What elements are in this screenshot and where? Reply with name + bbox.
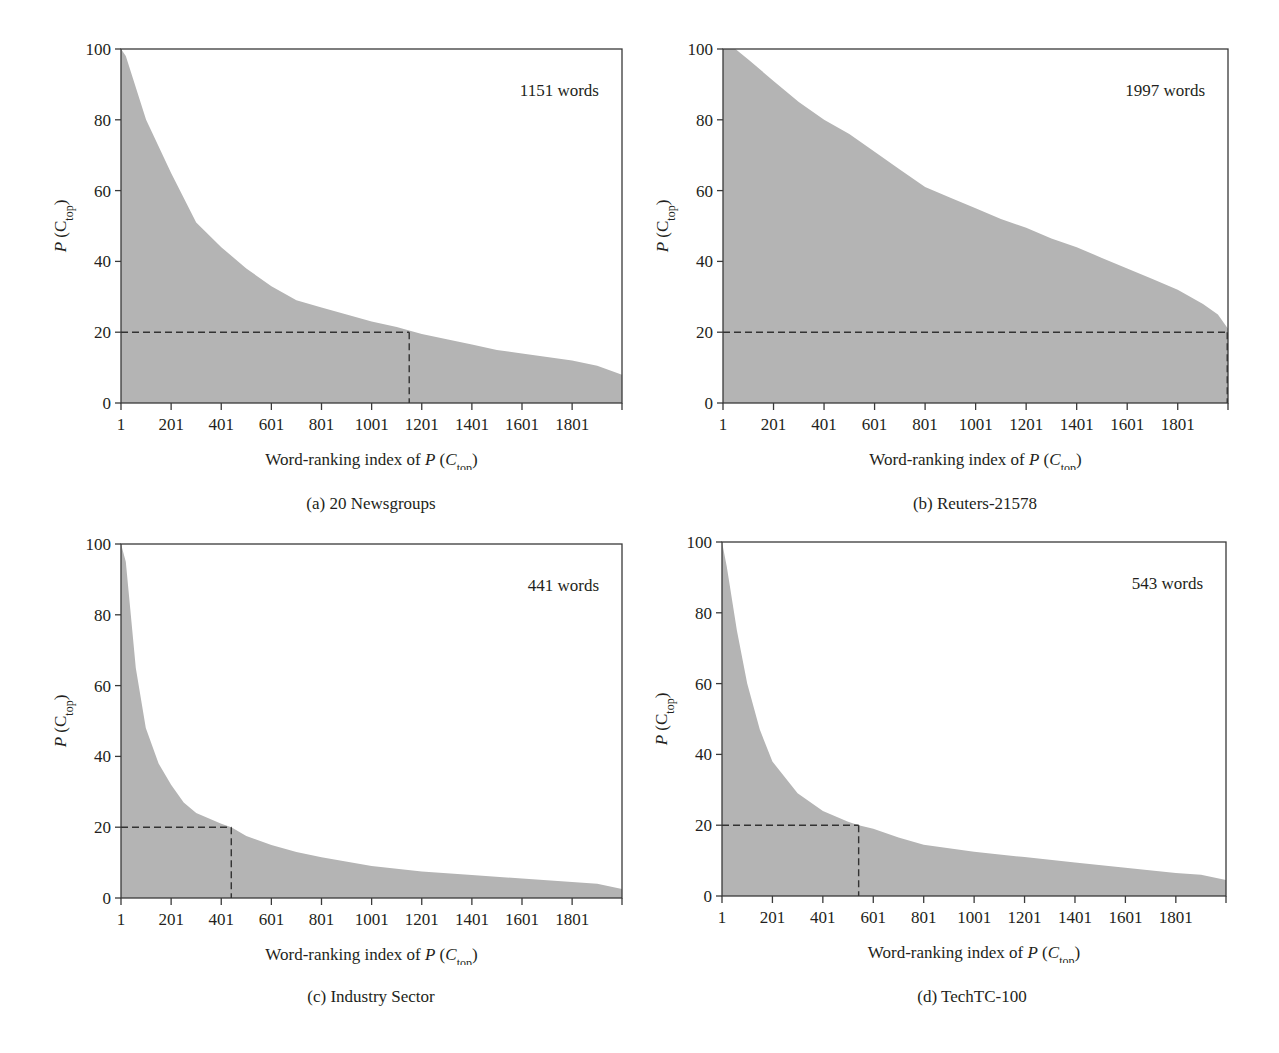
y-axis-label: P (Ctop) — [51, 695, 76, 749]
x-tick-label: 801 — [912, 415, 938, 434]
area-series — [121, 49, 622, 403]
x-tick-label: 1201 — [1008, 908, 1042, 927]
word-count-annotation: 1997 words — [1125, 81, 1205, 100]
y-axis-label: P (Ctop) — [652, 693, 677, 747]
x-axis-label: Word-ranking index of P (Ctop) — [265, 945, 477, 965]
area-series — [722, 542, 1226, 896]
x-tick-label: 1401 — [1060, 415, 1094, 434]
caption-c: (c) Industry Sector — [171, 987, 571, 1007]
y-tick-label: 40 — [94, 252, 111, 271]
x-tick-label: 1801 — [555, 910, 589, 929]
x-tick-label: 801 — [309, 415, 335, 434]
area-series — [723, 49, 1228, 403]
x-tick-label: 1 — [718, 908, 727, 927]
x-tick-label: 201 — [158, 910, 184, 929]
x-tick-label: 1 — [117, 910, 126, 929]
x-tick-label: 1001 — [959, 415, 993, 434]
y-tick-label: 80 — [696, 111, 713, 130]
word-count-annotation: 441 words — [528, 576, 599, 595]
chart-panel-a: 0204060801001201401601801100112011401160… — [0, 0, 640, 470]
y-tick-label: 20 — [695, 816, 712, 835]
x-tick-label: 401 — [810, 908, 836, 927]
x-tick-label: 1801 — [1159, 908, 1193, 927]
y-tick-label: 20 — [94, 818, 111, 837]
x-tick-label: 1001 — [355, 415, 389, 434]
y-tick-label: 80 — [695, 604, 712, 623]
x-tick-label: 1201 — [405, 415, 439, 434]
y-tick-label: 60 — [94, 677, 111, 696]
y-tick-label: 60 — [695, 675, 712, 694]
x-tick-label: 1601 — [1108, 908, 1142, 927]
chart-svg-b: 0204060801001201401601801100112011401160… — [640, 0, 1279, 470]
x-axis-label: Word-ranking index of P (Ctop) — [868, 943, 1080, 963]
caption-d: (d) TechTC-100 — [772, 987, 1172, 1007]
x-tick-label: 1601 — [505, 910, 539, 929]
chart-panel-c: 0204060801001201401601801100112011401160… — [0, 495, 640, 965]
y-tick-label: 60 — [94, 182, 111, 201]
area-series — [121, 544, 622, 898]
chart-svg-a: 0204060801001201401601801100112011401160… — [0, 0, 640, 470]
y-tick-label: 20 — [94, 323, 111, 342]
x-tick-label: 1201 — [1009, 415, 1043, 434]
y-tick-label: 60 — [696, 182, 713, 201]
x-tick-label: 601 — [861, 908, 887, 927]
chart-panel-b: 0204060801001201401601801100112011401160… — [640, 0, 1279, 470]
word-count-annotation: 543 words — [1132, 574, 1203, 593]
x-tick-label: 201 — [158, 415, 184, 434]
x-tick-label: 1 — [117, 415, 126, 434]
y-tick-label: 0 — [704, 887, 713, 906]
y-tick-label: 20 — [696, 323, 713, 342]
y-tick-label: 100 — [687, 533, 713, 552]
x-tick-label: 401 — [811, 415, 837, 434]
x-tick-label: 1401 — [455, 910, 489, 929]
x-tick-label: 601 — [259, 910, 285, 929]
y-tick-label: 0 — [103, 889, 112, 908]
chart-svg-d: 0204060801001201401601801100112011401160… — [640, 493, 1279, 963]
x-tick-label: 1201 — [405, 910, 439, 929]
x-tick-label: 601 — [259, 415, 285, 434]
x-axis-label: Word-ranking index of P (Ctop) — [265, 450, 477, 470]
x-tick-label: 1 — [719, 415, 728, 434]
figure-caption-cutoff — [0, 1043, 1279, 1053]
y-tick-label: 100 — [688, 40, 714, 59]
x-tick-label: 1001 — [957, 908, 991, 927]
y-tick-label: 40 — [94, 747, 111, 766]
x-tick-label: 401 — [209, 910, 235, 929]
x-axis-label: Word-ranking index of P (Ctop) — [869, 450, 1081, 470]
y-tick-label: 40 — [695, 745, 712, 764]
x-tick-label: 1601 — [505, 415, 539, 434]
y-axis-label: P (Ctop) — [653, 200, 678, 254]
y-tick-label: 0 — [705, 394, 714, 413]
x-tick-label: 1401 — [455, 415, 489, 434]
y-axis-label: P (Ctop) — [51, 200, 76, 254]
x-tick-label: 201 — [760, 908, 786, 927]
x-tick-label: 201 — [761, 415, 787, 434]
x-tick-label: 1601 — [1110, 415, 1144, 434]
x-tick-label: 1801 — [1161, 415, 1195, 434]
y-tick-label: 0 — [103, 394, 112, 413]
y-tick-label: 100 — [86, 535, 112, 554]
x-tick-label: 1001 — [355, 910, 389, 929]
x-tick-label: 401 — [209, 415, 235, 434]
chart-panel-d: 0204060801001201401601801100112011401160… — [640, 493, 1279, 963]
y-tick-label: 80 — [94, 606, 111, 625]
x-tick-label: 601 — [862, 415, 888, 434]
y-tick-label: 40 — [696, 252, 713, 271]
x-tick-label: 1401 — [1058, 908, 1092, 927]
x-tick-label: 801 — [309, 910, 335, 929]
x-tick-label: 801 — [911, 908, 937, 927]
y-tick-label: 80 — [94, 111, 111, 130]
x-tick-label: 1801 — [555, 415, 589, 434]
chart-svg-c: 0204060801001201401601801100112011401160… — [0, 495, 640, 965]
word-count-annotation: 1151 words — [520, 81, 599, 100]
y-tick-label: 100 — [86, 40, 112, 59]
